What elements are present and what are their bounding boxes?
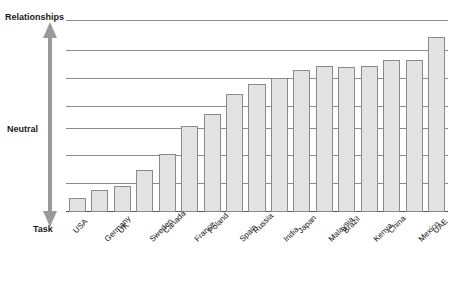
x-tick-slot: Germany (88, 214, 110, 276)
x-tick-slot: Sweden (133, 214, 155, 276)
bar-group (66, 20, 448, 212)
x-tick-slot: Kenya (358, 214, 380, 276)
bar-slot (358, 20, 380, 212)
x-tick-slot: Mexico (403, 214, 425, 276)
bar (136, 170, 153, 212)
x-tick-slot: India (268, 214, 290, 276)
bar (293, 70, 310, 212)
bar-slot (403, 20, 425, 212)
bar (226, 94, 243, 212)
bar-slot (111, 20, 133, 212)
bar (69, 198, 86, 212)
bar-slot (88, 20, 110, 212)
bar (383, 60, 400, 212)
x-tick-slot: Poland (201, 214, 223, 276)
x-tick-label: UK (117, 221, 131, 235)
x-tick-slot: USA (66, 214, 88, 276)
axis-pole-label-middle: Neutral (7, 124, 38, 134)
x-tick-slot: Brazil (336, 214, 358, 276)
x-tick-slot: France (178, 214, 200, 276)
bar (91, 190, 108, 212)
bar-slot (178, 20, 200, 212)
bar (204, 114, 221, 212)
bar-slot (291, 20, 313, 212)
bar-slot (156, 20, 178, 212)
bar-slot (246, 20, 268, 212)
bar (114, 186, 131, 212)
bar (316, 66, 333, 212)
x-tick-slot: UAE (426, 214, 448, 276)
bar-slot (223, 20, 245, 212)
x-tick-label: UAE (431, 217, 449, 235)
bar-slot (381, 20, 403, 212)
bar (248, 84, 265, 212)
bar-slot (66, 20, 88, 212)
bar-slot (133, 20, 155, 212)
bar-slot (336, 20, 358, 212)
vertical-double-arrow-icon (42, 22, 58, 227)
bar (361, 66, 378, 212)
x-tick-slot: Canada (156, 214, 178, 276)
bar (338, 67, 355, 212)
chart-container: Relationships Neutral Task USAGermanyUKS… (0, 0, 453, 283)
x-tick-slot: China (381, 214, 403, 276)
plot-area (66, 20, 448, 212)
bar (428, 37, 445, 212)
x-tick-slot: Japan (291, 214, 313, 276)
bar-slot (426, 20, 448, 212)
x-tick-slot: UK (111, 214, 133, 276)
bar-slot (268, 20, 290, 212)
bar (271, 78, 288, 212)
bar-slot (201, 20, 223, 212)
bar-slot (313, 20, 335, 212)
x-tick-slot: Russia (246, 214, 268, 276)
x-tick-slot: Spain (223, 214, 245, 276)
axis-pole-label-top: Relationships (5, 12, 64, 22)
bar (159, 154, 176, 212)
bar (181, 126, 198, 212)
x-axis-labels: USAGermanyUKSwedenCanadaFrancePolandSpai… (66, 214, 448, 276)
x-tick-slot: Malaysia (313, 214, 335, 276)
bar (406, 60, 423, 212)
x-tick-label: USA (72, 217, 90, 235)
